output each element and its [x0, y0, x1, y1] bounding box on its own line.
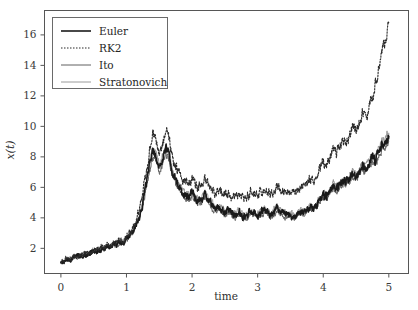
- x-tick-label: 3: [254, 281, 261, 293]
- y-tick-label: 14: [23, 59, 37, 71]
- chart-figure: 246810121416 012345 time x(t) EulerRK2It…: [0, 0, 418, 310]
- x-tick-label: 2: [189, 281, 196, 293]
- legend-label-rk2[interactable]: RK2: [99, 42, 121, 54]
- legend-label-euler[interactable]: Euler: [99, 25, 129, 37]
- x-tick-label: 4: [320, 281, 327, 293]
- x-tick-label: 5: [385, 281, 392, 293]
- legend-label-ito[interactable]: Ito: [99, 59, 114, 71]
- y-tick-label: 2: [30, 242, 37, 254]
- y-tick-label: 10: [23, 120, 36, 132]
- y-tick-label: 16: [23, 28, 37, 40]
- x-tick-label: 1: [123, 281, 130, 293]
- y-tick-label: 8: [30, 150, 37, 162]
- x-axis-label: time: [214, 290, 238, 302]
- x-tick-label: 0: [58, 281, 65, 293]
- y-tick-label: 4: [30, 211, 37, 223]
- y-tick-label: 12: [23, 89, 36, 101]
- legend-label-stratonovich[interactable]: Stratonovich: [99, 76, 167, 88]
- y-tick-label: 6: [30, 181, 37, 193]
- chart-canvas: 246810121416 012345 time x(t) EulerRK2It…: [0, 0, 418, 310]
- y-axis-label: x(t): [4, 140, 17, 159]
- chart-legend[interactable]: EulerRK2ItoStratonovich: [53, 18, 168, 89]
